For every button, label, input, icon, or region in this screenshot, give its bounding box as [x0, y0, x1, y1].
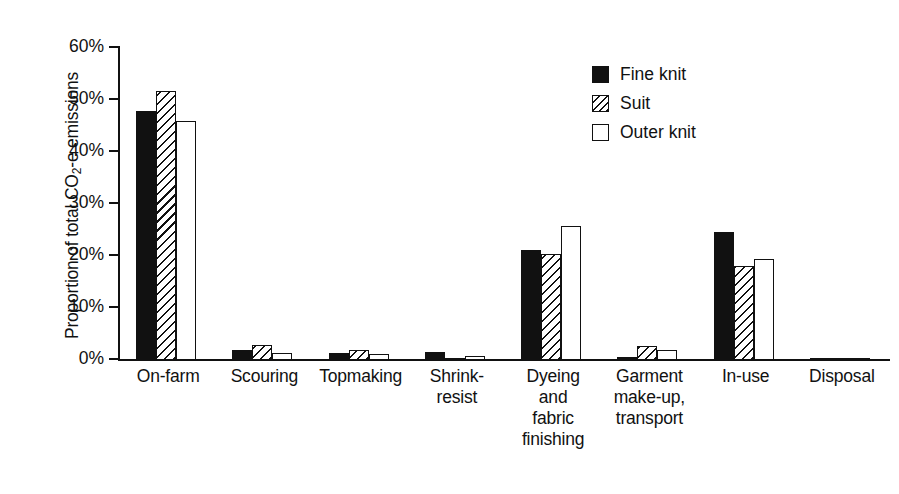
bar-suit	[445, 358, 465, 360]
bar-suit	[830, 358, 850, 360]
bar-fine	[329, 353, 349, 360]
bar-outer	[754, 259, 774, 360]
bar-suit	[349, 350, 369, 360]
bar-outer	[657, 350, 677, 360]
x-axis-label-line: Disposal	[782, 366, 899, 387]
y-axis-tick-label-text: 50%	[44, 90, 104, 108]
bar-group	[120, 47, 216, 360]
y-axis-tick-label-text: 0%	[44, 350, 104, 368]
x-axis-label: Disposal	[782, 366, 899, 387]
y-axis-tick	[109, 98, 120, 100]
bar-group	[216, 47, 312, 360]
bar-suit	[156, 91, 176, 360]
bar-outer	[176, 121, 196, 360]
bar-group	[409, 47, 505, 360]
y-axis-tick	[109, 46, 120, 48]
legend-swatch-suit-icon	[592, 95, 609, 112]
bar-group	[698, 47, 794, 360]
y-axis-tick-label-text: 60%	[44, 38, 104, 56]
bar-outer	[850, 358, 870, 360]
legend-swatch-outer-knit-icon	[592, 124, 609, 141]
legend-label-outer-knit: Outer knit	[620, 124, 696, 142]
legend-item-fine-knit: Fine knit	[592, 62, 696, 87]
x-axis-label-line: finishing	[493, 429, 613, 450]
plot-bars	[120, 47, 890, 360]
legend-label-suit: Suit	[620, 95, 650, 113]
y-axis-tick-label-text: 10%	[44, 298, 104, 316]
y-axis-tick-label-text: 30%	[44, 194, 104, 212]
y-axis-tick	[109, 358, 120, 360]
bar-fine	[617, 357, 637, 360]
y-axis-tick	[109, 306, 120, 308]
bar-outer	[465, 356, 485, 360]
y-axis-tick	[109, 254, 120, 256]
bar-suit	[541, 254, 561, 360]
bar-fine	[810, 358, 830, 360]
bar-outer	[272, 353, 292, 360]
legend-item-suit: Suit	[592, 91, 696, 116]
chart-legend: Fine knit Suit Outer knit	[592, 62, 696, 149]
bar-fine	[521, 250, 541, 360]
bar-group	[313, 47, 409, 360]
bar-fine	[425, 352, 445, 360]
x-axis-category-labels: On-farmScouringTopmakingShrink-resistDye…	[120, 366, 890, 491]
bar-group	[794, 47, 890, 360]
legend-swatch-fine-knit-icon	[592, 66, 609, 83]
bar-suit	[734, 266, 754, 360]
y-axis-tick	[109, 202, 120, 204]
legend-item-outer-knit: Outer knit	[592, 120, 696, 145]
x-axis-label-line: transport	[589, 408, 709, 429]
bar-fine	[232, 350, 252, 360]
legend-label-fine-knit: Fine knit	[620, 66, 686, 84]
y-axis-tick-label-text: 20%	[44, 246, 104, 264]
x-axis-label-line: make-up,	[589, 387, 709, 408]
bar-fine	[714, 232, 734, 360]
y-axis-tick	[109, 150, 120, 152]
bar-chart: Proportion of total CO2-e emissions 0%10…	[0, 0, 899, 494]
bar-fine	[136, 111, 156, 360]
y-axis-tick-label-text: 40%	[44, 142, 104, 160]
bar-suit	[637, 346, 657, 360]
bar-suit	[252, 345, 272, 360]
bar-outer	[561, 226, 581, 360]
y-axis-title-subscript: 2	[70, 168, 84, 174]
bar-group	[505, 47, 601, 360]
bar-outer	[369, 354, 389, 360]
